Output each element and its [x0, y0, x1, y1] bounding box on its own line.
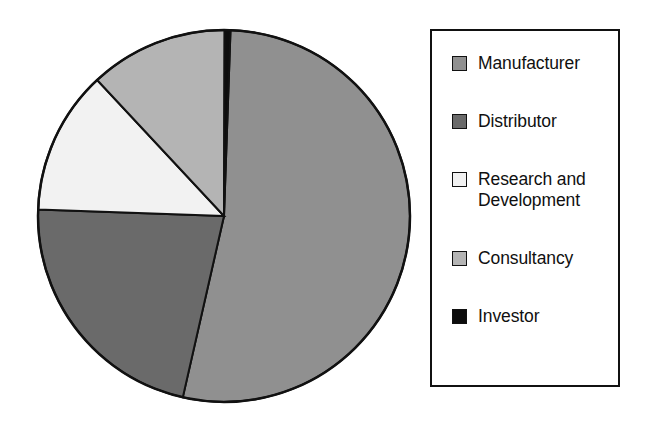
legend-item-investor[interactable]: Investor [452, 306, 610, 327]
legend-swatch-consultancy [452, 251, 467, 266]
legend-items: Manufacturer Distributor Research and De… [452, 53, 610, 377]
legend-label-research-and-development: Research and Development [478, 169, 586, 211]
legend-item-manufacturer[interactable]: Manufacturer [452, 53, 610, 74]
legend-item-research-and-development[interactable]: Research and Development [452, 169, 610, 211]
pie-svg [35, 20, 413, 412]
pie-chart-plot-area [35, 20, 413, 412]
legend-label-consultancy: Consultancy [478, 248, 573, 269]
legend-swatch-investor [452, 309, 467, 324]
legend-label-distributor: Distributor [478, 111, 557, 132]
legend-item-consultancy[interactable]: Consultancy [452, 248, 610, 269]
legend-label-manufacturer: Manufacturer [478, 53, 580, 74]
pie-slices [38, 30, 410, 402]
legend-swatch-manufacturer [452, 56, 467, 71]
legend-swatch-distributor [452, 114, 467, 129]
pie-chart-figure: Manufacturer Distributor Research and De… [0, 0, 651, 431]
legend-label-investor: Investor [478, 306, 539, 327]
legend: Manufacturer Distributor Research and De… [430, 29, 620, 387]
legend-swatch-research-and-development [452, 172, 467, 187]
legend-item-distributor[interactable]: Distributor [452, 111, 610, 132]
